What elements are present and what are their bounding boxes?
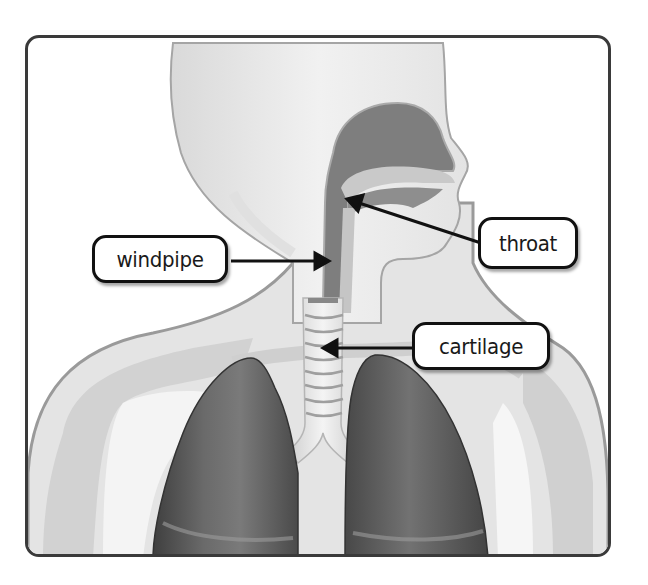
respiratory-illustration	[28, 38, 608, 554]
label-throat: throat	[478, 217, 578, 269]
diagram-frame	[25, 35, 611, 557]
label-windpipe: windpipe	[92, 235, 228, 283]
label-cartilage: cartilage	[412, 322, 550, 370]
